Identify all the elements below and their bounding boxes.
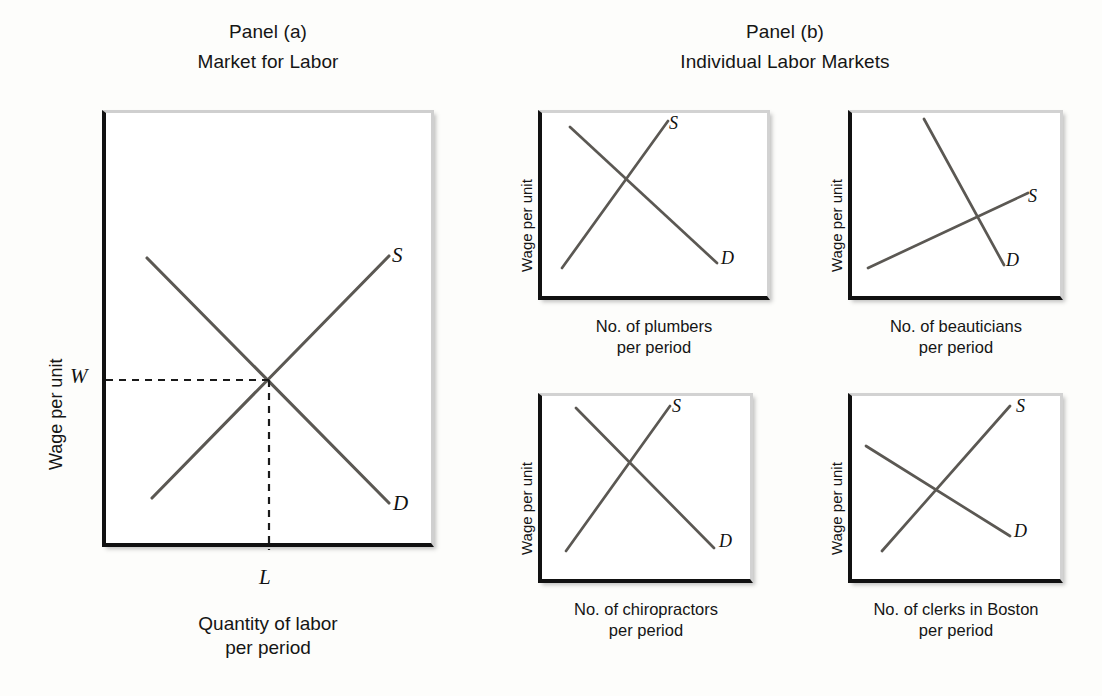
beauticians-y-axis-label: Wage per unit	[828, 179, 845, 272]
panel-a-demand-label: D	[393, 491, 408, 516]
chiropractors-x-axis-label: No. of chiropractors per period	[518, 599, 774, 642]
clerks-demand-label: D	[1014, 521, 1027, 542]
panel-a-supply-label: S	[392, 243, 403, 268]
plumbers-x-axis-label: No. of plumbers per period	[534, 316, 774, 359]
beauticians-demand-label: D	[1006, 250, 1019, 271]
beauticians-curves	[852, 113, 1067, 303]
beauticians-supply-label: S	[1028, 186, 1037, 207]
chiropractors-x-axis-label-line1: No. of chiropractors	[518, 599, 774, 620]
plumbers-plot-area	[538, 110, 770, 300]
beauticians-supply-curve	[868, 193, 1028, 268]
panel-a-equilibrium-quantity-label: L	[259, 565, 271, 590]
panel-a-plot-area	[102, 110, 434, 547]
plumbers-y-axis-label: Wage per unit	[518, 179, 535, 272]
figure-canvas: Panel (a) Market for Labor Wage per unit…	[0, 0, 1102, 696]
chiropractors-demand-curve	[576, 408, 714, 548]
panel-a-x-axis-label: Quantity of labor per period	[118, 612, 418, 661]
clerks-plot-area	[848, 393, 1063, 583]
plumbers-supply-curve	[562, 121, 668, 268]
clerks-y-axis-label: Wage per unit	[828, 462, 845, 555]
panel-b-title: Panel (b)	[575, 21, 995, 43]
plumbers-demand-curve	[570, 127, 717, 263]
panel-a-subtitle: Market for Labor	[83, 51, 453, 73]
plumbers-x-axis-label-line2: per period	[534, 337, 774, 358]
chiropractors-y-axis-label: Wage per unit	[518, 462, 535, 555]
panel-a-x-axis-label-line1: Quantity of labor	[118, 612, 418, 636]
panel-a-equilibrium-wage-label: W	[70, 364, 88, 389]
chiropractors-supply-label: S	[672, 396, 681, 417]
beauticians-x-axis-label-line2: per period	[828, 337, 1084, 358]
clerks-x-axis-label-line2: per period	[818, 620, 1094, 641]
panel-a-y-axis-label: Wage per unit	[46, 359, 67, 470]
chiropractors-plot-area	[538, 393, 753, 583]
plumbers-curves	[542, 113, 774, 303]
plumbers-demand-label: D	[721, 248, 734, 269]
plumbers-x-axis-label-line1: No. of plumbers	[534, 316, 774, 337]
clerks-x-axis-label: No. of clerks in Boston per period	[818, 599, 1094, 642]
clerks-supply-label: S	[1016, 396, 1025, 417]
beauticians-x-axis-label: No. of beauticians per period	[828, 316, 1084, 359]
beauticians-demand-curve	[924, 119, 1004, 265]
panel-a-x-axis-label-line2: per period	[118, 636, 418, 660]
clerks-demand-curve	[866, 446, 1010, 536]
plumbers-supply-label: S	[669, 113, 678, 134]
clerks-x-axis-label-line1: No. of clerks in Boston	[818, 599, 1094, 620]
panel-a-supply-curve	[152, 256, 389, 498]
panel-a-title: Panel (a)	[83, 21, 453, 43]
clerks-supply-curve	[882, 406, 1010, 551]
beauticians-x-axis-label-line1: No. of beauticians	[828, 316, 1084, 337]
panel-a-curves	[106, 113, 438, 550]
chiropractors-supply-curve	[566, 406, 670, 551]
panel-b-subtitle: Individual Labor Markets	[575, 51, 995, 73]
chiropractors-curves	[542, 396, 757, 586]
clerks-curves	[852, 396, 1067, 586]
chiropractors-demand-label: D	[719, 531, 732, 552]
chiropractors-x-axis-label-line2: per period	[518, 620, 774, 641]
